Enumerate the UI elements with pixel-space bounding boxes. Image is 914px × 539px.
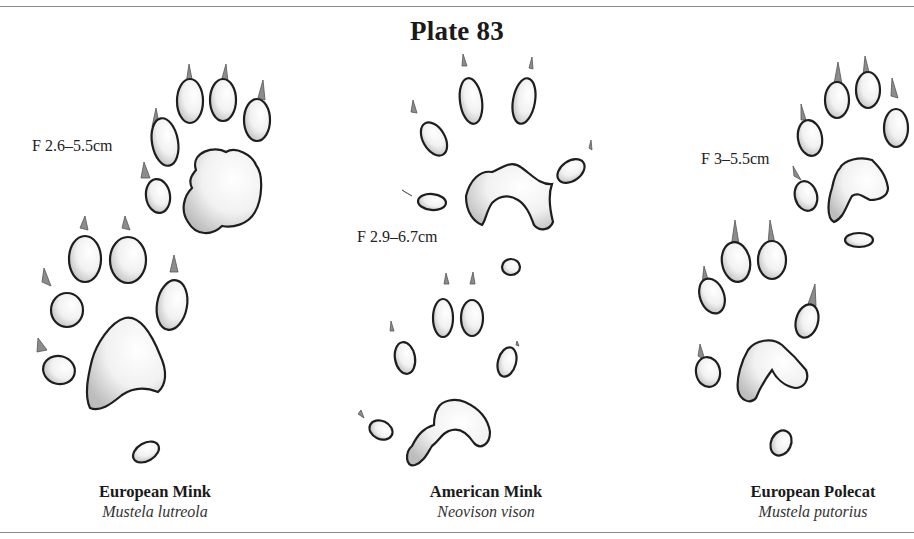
- european-mink-caption: European Mink Mustela lutreola: [35, 482, 275, 522]
- bottom-rule: [0, 532, 914, 533]
- european-polecat-measurement: F 3–5.5cm: [701, 150, 769, 168]
- track-illustrations: [0, 0, 914, 539]
- european-polecat-upper-print: [791, 56, 908, 247]
- american-mink-caption: American Mink Neovison vison: [366, 482, 606, 522]
- european-mink-lower-print: [37, 216, 191, 467]
- european-mink-measurement: F 2.6–5.5cm: [32, 137, 112, 155]
- american-mink-common-name: American Mink: [366, 482, 606, 502]
- european-mink-upper-print: [141, 64, 270, 233]
- american-mink-latin-name: Neovison vison: [366, 502, 606, 522]
- european-polecat-common-name: European Polecat: [693, 482, 914, 502]
- european-mink-latin-name: Mustela lutreola: [35, 502, 275, 522]
- european-polecat-latin-name: Mustela putorius: [693, 502, 914, 522]
- american-mink-lower-print: [358, 272, 520, 465]
- european-polecat-lower-print: [694, 220, 822, 459]
- american-mink-measurement: F 2.9–6.7cm: [357, 228, 437, 246]
- european-mink-common-name: European Mink: [35, 482, 275, 502]
- european-polecat-caption: European Polecat Mustela putorius: [693, 482, 914, 522]
